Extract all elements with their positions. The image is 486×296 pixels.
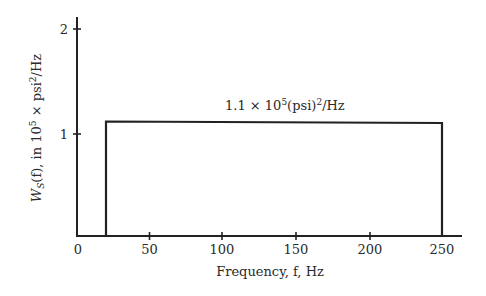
- x-tick-label-250: 250: [430, 242, 455, 257]
- x-tick-label-50: 50: [141, 242, 158, 257]
- y-tick-label-2: 2: [60, 22, 68, 37]
- x-tick-label-200: 200: [358, 242, 383, 257]
- x-tick-label-0: 0: [74, 242, 82, 257]
- psd-band-line: [106, 122, 442, 237]
- x-tick-label-150: 150: [284, 242, 309, 257]
- psd-level-annotation: 1.1 × 105(psi)2/Hz: [225, 97, 345, 113]
- psd-chart: 2 1 0 50 100 150 200 250 1.1 × 105(psi)2…: [0, 0, 486, 296]
- y-tick-label-1: 1: [60, 127, 68, 142]
- x-axis-title: Frequency, f, Hz: [216, 264, 324, 279]
- axes: [76, 17, 462, 237]
- x-tick-label-100: 100: [210, 242, 235, 257]
- y-axis-title: WS(f), in 105 × psi2/Hz: [28, 54, 46, 202]
